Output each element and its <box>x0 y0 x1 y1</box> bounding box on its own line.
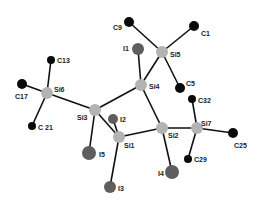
atom-c5 <box>175 83 185 93</box>
atom-c9 <box>124 17 134 27</box>
atom-c29 <box>184 155 192 163</box>
atom-label-c29: C29 <box>194 156 207 163</box>
atom-label-si4: Si4 <box>149 83 160 90</box>
atom-c13 <box>47 56 55 64</box>
atom-label-si3: Si3 <box>77 114 88 121</box>
atom-label-c1: C1 <box>201 30 210 37</box>
atom-c17 <box>17 79 27 89</box>
atom-si5 <box>156 46 168 58</box>
bond-si1-i3 <box>110 137 119 187</box>
atom-label-c13: C13 <box>57 57 70 64</box>
bond-c1-si5 <box>162 26 194 52</box>
atom-label-c9: C9 <box>113 24 122 31</box>
atom-label-si1: Si1 <box>124 142 135 149</box>
atom-label-i2: I2 <box>120 116 126 123</box>
atom-label-c5: C5 <box>186 80 195 87</box>
labels-layer: C9C1Si5I1C5Si4C32C13Si6C17C 21Si3I2Si1I5… <box>15 24 247 192</box>
atom-i4 <box>165 165 179 179</box>
atom-label-i5: I5 <box>99 151 105 158</box>
atom-i5 <box>82 146 96 160</box>
atom-label-si7: Si7 <box>201 120 212 127</box>
atom-label-i1: I1 <box>123 45 129 52</box>
atom-si6 <box>41 87 53 99</box>
atoms-layer <box>17 17 238 193</box>
atom-label-c17: C17 <box>15 93 28 100</box>
atom-c1 <box>189 21 199 31</box>
molecular-structure-diagram: C9C1Si5I1C5Si4C32C13Si6C17C 21Si3I2Si1I5… <box>0 0 258 210</box>
atom-c32 <box>188 95 196 103</box>
atom-i3 <box>104 181 116 193</box>
atom-c21 <box>28 122 36 130</box>
bond-si1-si2 <box>119 128 162 137</box>
atom-si4 <box>135 79 147 91</box>
atom-i1 <box>132 43 144 55</box>
atom-label-si5: Si5 <box>170 51 181 58</box>
bond-si4-si3 <box>95 85 141 110</box>
atom-si3 <box>89 104 101 116</box>
atom-label-c32: C32 <box>198 97 211 104</box>
bond-si6-si3 <box>47 93 95 110</box>
atom-label-si2: Si2 <box>168 132 179 139</box>
atom-c25 <box>228 128 238 138</box>
bond-si4-si2 <box>141 85 162 128</box>
atom-label-i3: I3 <box>118 185 124 192</box>
atom-label-c25: C25 <box>234 142 247 149</box>
atom-i2 <box>108 114 118 124</box>
atom-label-i4: I4 <box>158 170 164 177</box>
atom-label-c21: C 21 <box>38 124 53 131</box>
atom-si2 <box>156 122 168 134</box>
atom-label-si6: Si6 <box>54 86 65 93</box>
